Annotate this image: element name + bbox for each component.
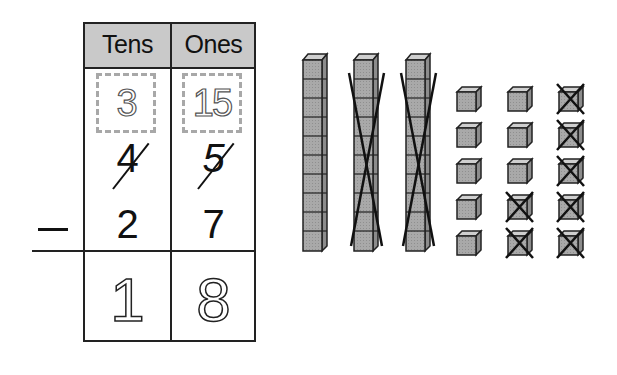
unit-cubes [457, 84, 584, 258]
unit-cube [457, 231, 481, 255]
unit-cube-crossed [506, 228, 533, 258]
unit-cube [457, 159, 481, 183]
unit-cube [508, 159, 532, 183]
unit-cube [508, 87, 532, 111]
unit-cube-crossed [557, 228, 584, 258]
unit-cube-crossed [557, 192, 584, 222]
base-ten-blocks [0, 0, 617, 375]
ten-rod-2-crossed [349, 54, 384, 251]
unit-cube [508, 123, 532, 147]
unit-cube [457, 87, 481, 111]
unit-cube-crossed [557, 120, 584, 150]
unit-cube-crossed [557, 84, 584, 114]
unit-cube-crossed [506, 192, 533, 222]
unit-cube-crossed [557, 156, 584, 186]
ten-rod-1 [303, 54, 327, 251]
unit-cube [457, 195, 481, 219]
unit-cube [457, 123, 481, 147]
ten-rod-3-crossed [401, 54, 436, 251]
